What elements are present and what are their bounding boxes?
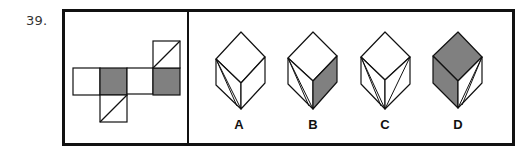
- answer-options: ABCD: [216, 32, 482, 132]
- net-square-row-1: [73, 68, 100, 95]
- option-label: D: [453, 117, 462, 132]
- net-square-row-2: [100, 68, 127, 95]
- option-a[interactable]: A: [216, 32, 265, 132]
- net-square-top: [153, 41, 180, 68]
- option-label: A: [234, 117, 244, 132]
- net-square-row-4: [153, 68, 180, 95]
- option-b[interactable]: B: [288, 32, 337, 132]
- option-label: B: [308, 117, 317, 132]
- option-c[interactable]: C: [361, 32, 410, 132]
- cube-net: [73, 41, 180, 122]
- option-d[interactable]: D: [433, 32, 482, 132]
- net-square-row-3: [127, 68, 153, 94]
- net-square-bottom: [100, 95, 127, 122]
- option-label: C: [380, 117, 390, 132]
